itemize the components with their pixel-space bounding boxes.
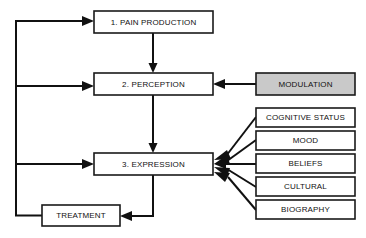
arrowhead-icon	[82, 159, 94, 169]
node-perception[interactable]: 2. PERCEPTION	[94, 73, 213, 95]
node-treatment[interactable]: TREATMENT	[42, 205, 120, 226]
arrowhead-icon	[213, 79, 225, 89]
edge-layer	[16, 16, 256, 221]
node-label: BELIEFS	[289, 159, 323, 168]
edge-line	[228, 177, 256, 210]
edge-line	[132, 175, 153, 216]
node-label: TREATMENT	[56, 211, 106, 220]
node-label: 1. PAIN PRODUCTION	[111, 18, 197, 27]
node-layer: 1. PAIN PRODUCTION2. PERCEPTION3. EXPRES…	[42, 11, 355, 226]
node-expression[interactable]: 3. EXPRESSION	[94, 153, 213, 175]
arrowhead-icon	[120, 211, 132, 221]
edge-treatment-to-spine	[16, 21, 82, 216]
node-label: 3. EXPRESSION	[122, 160, 185, 169]
node-label: CULTURAL	[284, 182, 327, 191]
node-pain-production[interactable]: 1. PAIN PRODUCTION	[94, 11, 213, 33]
edge-spine-to-perception	[16, 81, 94, 91]
arrowhead-icon	[82, 81, 94, 91]
arrowhead-icon	[82, 16, 94, 26]
edge-pain-to-perception	[149, 33, 158, 73]
diagram-canvas: 1. PAIN PRODUCTION2. PERCEPTION3. EXPRES…	[0, 0, 366, 238]
node-cognitive-status[interactable]: COGNITIVE STATUS	[256, 108, 355, 127]
node-mood[interactable]: MOOD	[256, 131, 355, 150]
pain-model-flow-diagram: 1. PAIN PRODUCTION2. PERCEPTION3. EXPRES…	[0, 0, 366, 238]
node-label: BIOGRAPHY	[281, 205, 330, 214]
node-label: COGNITIVE STATUS	[266, 113, 345, 122]
edge-spine-to-pain-production	[16, 16, 94, 26]
node-label: MOOD	[293, 136, 319, 145]
node-cultural[interactable]: CULTURAL	[256, 177, 355, 196]
node-biography[interactable]: BIOGRAPHY	[256, 200, 355, 219]
node-modulation[interactable]: MODULATION	[256, 73, 355, 95]
edge-modulation-to-perception	[213, 79, 256, 89]
node-label: MODULATION	[278, 80, 332, 89]
edge-spine-to-expression	[16, 159, 94, 169]
edge-perception-to-expression	[149, 95, 158, 153]
edge-expression-to-treatment	[120, 175, 153, 221]
edge-line	[16, 21, 82, 216]
node-label: 2. PERCEPTION	[122, 80, 185, 89]
arrowhead-icon	[149, 143, 158, 153]
edge-cognitive-status-to-expression	[214, 117, 256, 160]
node-beliefs[interactable]: BELIEFS	[256, 154, 355, 173]
arrowhead-icon	[214, 172, 230, 182]
edge-biography-to-expression	[214, 172, 256, 210]
edge-line	[227, 169, 256, 187]
arrowhead-icon	[149, 63, 158, 73]
